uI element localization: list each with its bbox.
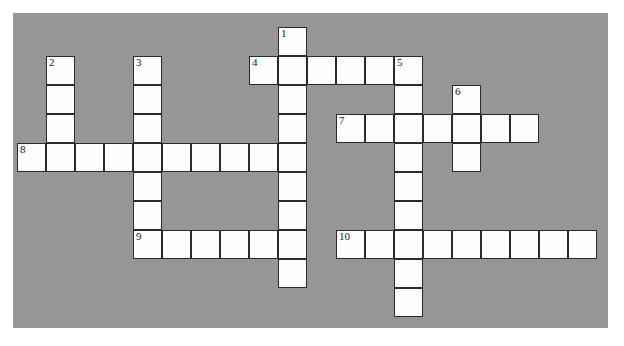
crossword-cell[interactable]: 10 (336, 230, 365, 259)
crossword-puzzle: 12345678910 (0, 0, 624, 346)
crossword-cell[interactable] (278, 230, 307, 259)
crossword-grid: 12345678910 (13, 13, 608, 328)
crossword-cell[interactable] (46, 114, 75, 143)
crossword-cell[interactable] (539, 230, 568, 259)
crossword-cell-letter (569, 231, 596, 258)
crossword-cell[interactable] (162, 143, 191, 172)
crossword-cell-letter (134, 115, 161, 142)
crossword-cell-letter (192, 231, 219, 258)
crossword-cell[interactable] (481, 230, 510, 259)
crossword-cell-letter (279, 231, 306, 258)
crossword-cell-letter (453, 231, 480, 258)
crossword-cell[interactable] (336, 56, 365, 85)
crossword-cell[interactable] (133, 172, 162, 201)
crossword-cell[interactable]: 3 (133, 56, 162, 85)
crossword-cell-letter (134, 231, 161, 258)
crossword-cell[interactable] (278, 114, 307, 143)
crossword-cell-letter (134, 144, 161, 171)
crossword-cell[interactable] (278, 201, 307, 230)
crossword-cell[interactable]: 5 (394, 56, 423, 85)
crossword-cell-letter (424, 231, 451, 258)
crossword-cell[interactable] (481, 114, 510, 143)
crossword-cell-letter (395, 144, 422, 171)
crossword-cell[interactable]: 7 (336, 114, 365, 143)
crossword-cell-letter (163, 144, 190, 171)
crossword-cell-letter (76, 144, 103, 171)
crossword-cell[interactable] (423, 114, 452, 143)
crossword-cell[interactable]: 1 (278, 27, 307, 56)
crossword-cell[interactable] (452, 143, 481, 172)
crossword-cell[interactable] (307, 56, 336, 85)
crossword-cell[interactable]: 6 (452, 85, 481, 114)
crossword-cell-letter (134, 202, 161, 229)
crossword-cell-letter (18, 144, 45, 171)
crossword-cell[interactable] (278, 143, 307, 172)
crossword-cell[interactable] (394, 85, 423, 114)
crossword-cell-letter (47, 57, 74, 84)
crossword-cell[interactable] (278, 56, 307, 85)
crossword-cell-letter (511, 231, 538, 258)
crossword-cell[interactable] (452, 114, 481, 143)
crossword-cell[interactable] (46, 85, 75, 114)
crossword-cell[interactable] (394, 172, 423, 201)
crossword-cell-letter (134, 57, 161, 84)
crossword-cell[interactable] (278, 259, 307, 288)
crossword-cell[interactable] (278, 85, 307, 114)
crossword-cell-letter (279, 260, 306, 287)
crossword-cell[interactable] (278, 172, 307, 201)
crossword-cell-letter (540, 231, 567, 258)
crossword-cell[interactable] (452, 230, 481, 259)
crossword-cell[interactable] (220, 143, 249, 172)
crossword-cell[interactable] (365, 114, 394, 143)
crossword-cell[interactable] (75, 143, 104, 172)
crossword-cell[interactable] (394, 114, 423, 143)
crossword-cell-letter (395, 260, 422, 287)
crossword-cell-letter (250, 57, 277, 84)
crossword-cell[interactable] (423, 230, 452, 259)
crossword-cell[interactable] (568, 230, 597, 259)
crossword-cell[interactable]: 2 (46, 56, 75, 85)
crossword-cell-letter (279, 173, 306, 200)
crossword-cell-letter (482, 115, 509, 142)
crossword-cell-letter (47, 86, 74, 113)
crossword-cell[interactable] (162, 230, 191, 259)
crossword-cell-letter (221, 144, 248, 171)
crossword-cell-letter (511, 115, 538, 142)
crossword-cell[interactable] (510, 230, 539, 259)
crossword-cell-letter (453, 144, 480, 171)
crossword-cell[interactable] (394, 201, 423, 230)
crossword-cell[interactable] (133, 85, 162, 114)
crossword-cell[interactable] (104, 143, 133, 172)
crossword-cell[interactable] (394, 259, 423, 288)
crossword-cell[interactable] (191, 230, 220, 259)
crossword-cell-letter (47, 115, 74, 142)
crossword-cell[interactable] (220, 230, 249, 259)
crossword-cell-letter (337, 231, 364, 258)
crossword-cell-letter (395, 289, 422, 316)
crossword-cell[interactable] (510, 114, 539, 143)
crossword-cell[interactable] (394, 288, 423, 317)
crossword-cell[interactable]: 4 (249, 56, 278, 85)
crossword-cell[interactable] (365, 56, 394, 85)
crossword-cell-letter (366, 115, 393, 142)
crossword-cell-letter (250, 144, 277, 171)
crossword-cell[interactable] (394, 230, 423, 259)
crossword-cell-letter (163, 231, 190, 258)
crossword-cell[interactable] (133, 201, 162, 230)
crossword-cell[interactable] (191, 143, 220, 172)
crossword-cell[interactable]: 8 (17, 143, 46, 172)
crossword-cell[interactable] (133, 114, 162, 143)
crossword-cell-letter (395, 115, 422, 142)
crossword-cell-letter (337, 57, 364, 84)
crossword-cell-letter (424, 115, 451, 142)
crossword-cell-letter (279, 86, 306, 113)
crossword-cell-letter (366, 57, 393, 84)
crossword-cell-letter (453, 115, 480, 142)
crossword-cell[interactable]: 9 (133, 230, 162, 259)
crossword-cell[interactable] (46, 143, 75, 172)
crossword-cell[interactable] (249, 143, 278, 172)
crossword-cell[interactable] (249, 230, 278, 259)
crossword-cell[interactable] (394, 143, 423, 172)
crossword-cell[interactable] (133, 143, 162, 172)
crossword-cell[interactable] (365, 230, 394, 259)
